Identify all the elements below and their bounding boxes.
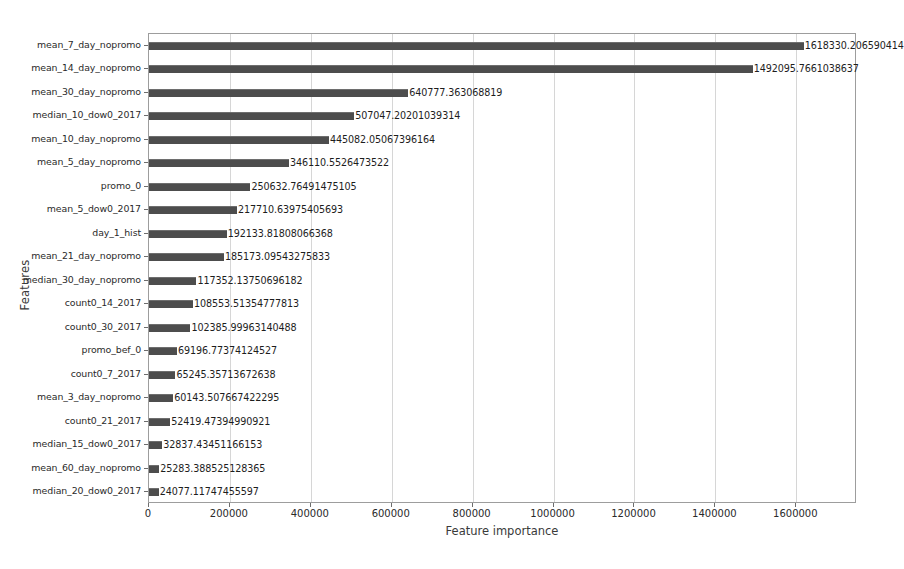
- gridline: [392, 34, 393, 502]
- y-axis-tick-label: count0_30_2017: [0, 321, 141, 333]
- bar-value-label: 69196.77374124527: [178, 343, 277, 359]
- y-axis-tick-label: count0_14_2017: [0, 297, 141, 309]
- gridline: [554, 34, 555, 502]
- gridline: [473, 34, 474, 502]
- x-axis-tick-mark: [310, 503, 311, 507]
- bar: [149, 324, 190, 332]
- x-axis-tick-mark: [472, 503, 473, 507]
- bar-value-label: 445082.05067396164: [330, 132, 435, 148]
- bar-value-label: 640777.363068819: [409, 85, 502, 101]
- x-axis-tick-mark: [391, 503, 392, 507]
- y-axis-tick-label: mean_10_day_nopromo: [0, 133, 141, 145]
- bar: [149, 42, 804, 50]
- bar: [149, 441, 162, 449]
- plot-area: 1618330.2065904141492095.766103863764077…: [148, 33, 856, 503]
- x-axis-tick-label: 800000: [453, 508, 491, 519]
- x-axis-tick-mark: [714, 503, 715, 507]
- bar-value-label: 24077.11747455597: [160, 484, 259, 500]
- x-axis-tick-label: 1600000: [773, 508, 818, 519]
- bar-value-label: 32837.43451166153: [163, 437, 262, 453]
- y-axis-tick-label: promo_0: [0, 180, 141, 192]
- bar: [149, 65, 753, 73]
- bar-value-label: 346110.5526473522: [290, 155, 389, 171]
- y-axis-tick-label: mean_7_day_nopromo: [0, 39, 141, 51]
- bar: [149, 300, 193, 308]
- x-axis-tick-mark: [553, 503, 554, 507]
- y-axis-tick-label: day_1_hist: [0, 227, 141, 239]
- bar: [149, 89, 408, 97]
- y-axis-tick-label: mean_14_day_nopromo: [0, 62, 141, 74]
- x-axis-title: Feature importance: [148, 524, 856, 538]
- y-axis-tick-label: mean_60_day_nopromo: [0, 462, 141, 474]
- x-axis-tick-label: 1400000: [692, 508, 737, 519]
- bar: [149, 136, 329, 144]
- bar-value-label: 60143.507667422295: [174, 390, 279, 406]
- gridline: [634, 34, 635, 502]
- bar-value-label: 1492095.7661038637: [754, 61, 859, 77]
- x-axis-tick-label: 0: [145, 508, 151, 519]
- x-axis-tick-mark: [229, 503, 230, 507]
- y-axis-tick-label: mean_30_day_nopromo: [0, 86, 141, 98]
- y-axis-tick-label: mean_5_day_nopromo: [0, 156, 141, 168]
- x-axis-tick-mark: [148, 503, 149, 507]
- y-axis-tick-label: median_10_dow0_2017: [0, 109, 141, 121]
- gridline: [715, 34, 716, 502]
- bar-value-label: 108553.51354777813: [194, 296, 299, 312]
- bar-value-label: 102385.99963140488: [191, 320, 296, 336]
- bar-value-label: 217710.63975405693: [238, 202, 343, 218]
- bar-value-label: 65245.35713672638: [176, 367, 275, 383]
- gridline: [796, 34, 797, 502]
- x-axis-tick-label: 1000000: [530, 508, 575, 519]
- bar: [149, 159, 289, 167]
- bar: [149, 253, 224, 261]
- bar: [149, 488, 159, 496]
- bar: [149, 465, 159, 473]
- bar: [149, 371, 175, 379]
- x-axis-tick-label: 400000: [291, 508, 329, 519]
- bar: [149, 230, 227, 238]
- y-axis-tick-label: mean_3_day_nopromo: [0, 391, 141, 403]
- y-axis-tick-label: count0_21_2017: [0, 415, 141, 427]
- bar: [149, 347, 177, 355]
- y-axis-tick-label: count0_7_2017: [0, 368, 141, 380]
- bar-value-label: 507047.20201039314: [355, 108, 460, 124]
- x-axis-tick-label: 200000: [210, 508, 248, 519]
- bar-value-label: 117352.13750696182: [197, 273, 302, 289]
- y-axis-tick-label: mean_21_day_nopromo: [0, 250, 141, 262]
- bar-value-label: 25283.388525128365: [160, 461, 265, 477]
- y-axis-tick-label: promo_bef_0: [0, 344, 141, 356]
- bar: [149, 206, 237, 214]
- y-axis-tick-label: median_20_dow0_2017: [0, 485, 141, 497]
- gridline: [311, 34, 312, 502]
- x-axis-tick-mark: [633, 503, 634, 507]
- bar-value-label: 1618330.206590414: [805, 38, 904, 54]
- bar: [149, 394, 173, 402]
- bar-value-label: 52419.47394990921: [171, 414, 270, 430]
- y-axis-tick-label: mean_5_dow0_2017: [0, 203, 141, 215]
- x-axis-tick-mark: [795, 503, 796, 507]
- gridline: [230, 34, 231, 502]
- bar: [149, 183, 250, 191]
- bar-value-label: 250632.76491475105: [251, 179, 356, 195]
- x-axis-tick-label: 600000: [372, 508, 410, 519]
- bar: [149, 112, 354, 120]
- bar: [149, 418, 170, 426]
- bar-value-label: 185173.09543275833: [225, 249, 330, 265]
- bar-value-label: 192133.81808066368: [228, 226, 333, 242]
- bar: [149, 277, 196, 285]
- x-axis-tick-label: 1200000: [611, 508, 656, 519]
- y-axis-tick-label: median_30_day_nopromo: [0, 274, 141, 286]
- y-axis-tick-label: median_15_dow0_2017: [0, 438, 141, 450]
